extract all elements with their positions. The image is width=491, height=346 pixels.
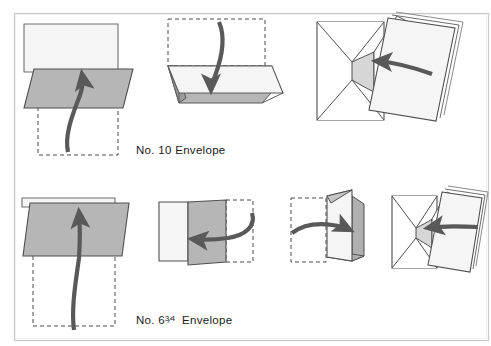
caption-no634-suffix: Envelope [182,314,232,326]
insert-arrow [428,226,478,228]
paper-flap-shaded [23,203,129,256]
paper-upper [24,24,118,72]
paper-right-panel-shaded [352,196,364,261]
paper-left-panel [159,202,188,261]
caption-no-6-34-envelope: No. 63⁄4 Envelope [136,314,232,326]
paper-middle-panel-shaded [188,200,226,265]
caption-no10-suffix: Envelope [175,144,225,156]
figure-illustration [0,0,491,346]
caption-no10-prefix: No. 10 [136,144,172,156]
paper-top-face [168,66,283,93]
caption-no634-spacer [175,314,182,326]
caption-no-10-envelope: No. 10 Envelope [136,144,226,156]
envelope-folding-figure: No. 10 Envelope No. 63⁄4 Envelope [0,0,491,346]
caption-no634-prefix: No. 6 [136,314,165,326]
